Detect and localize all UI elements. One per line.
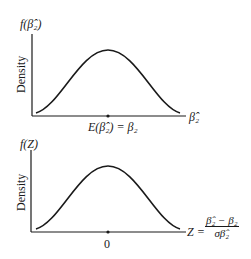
bottom-x-axis-fraction: β̂₂ − β₂ σβ̂₂ (205, 214, 239, 239)
bottom-y-axis-label: Density (14, 174, 29, 211)
bottom-density-curve (36, 166, 180, 229)
top-y-axis-title: f(β̂₂) (20, 17, 41, 32)
top-y-axis-label: Density (14, 56, 29, 93)
top-axes (32, 34, 186, 118)
top-density-curve (36, 50, 180, 113)
bottom-x-tick-label: 0 (104, 237, 110, 252)
top-x-axis-label: β̂₂ (189, 110, 199, 125)
bottom-axes (31, 150, 186, 234)
bottom-y-axis-title: f(Z) (20, 137, 38, 152)
fraction-denominator: σβ̂₂ (205, 227, 239, 239)
fraction-numerator: β̂₂ − β₂ (205, 214, 239, 227)
top-x-tick-label: E(β̂₂) = β₂ (88, 120, 138, 135)
bottom-x-axis-label-prefix: Z = (187, 225, 205, 240)
